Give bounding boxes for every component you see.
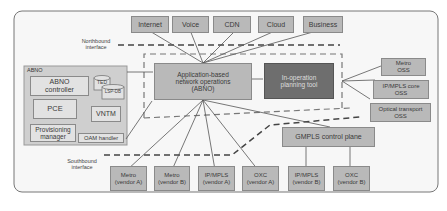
provisioning-manager: Provisioning manager — [30, 124, 76, 142]
vntm-box: VNTM — [91, 106, 121, 122]
device-metro-vendor-b: Metro (vendor B) — [154, 166, 190, 191]
service-cdn: CDN — [213, 16, 251, 33]
ted-label: TED — [94, 80, 110, 86]
southbound-interface-label: Southbound interface — [58, 158, 106, 170]
device-ip-mpls-vendor-b: IP/MPLS (vendor B) — [288, 166, 325, 191]
abno-box: Application-based network operations (AB… — [154, 63, 252, 100]
abno-group-label: ABNO — [27, 67, 43, 73]
service-cloud: Cloud — [258, 16, 294, 33]
optical-transport-oss: Optical transport OSS — [370, 103, 431, 122]
service-voice: Voice — [172, 16, 209, 33]
service-internet: Internet — [131, 16, 169, 33]
gmpls-control-plane: GMPLS control plane — [282, 127, 375, 147]
northbound-interface-label: Northbound interface — [72, 38, 120, 50]
device-ip-mpls-vendor-a: IP/MPLS (vendor A) — [198, 166, 235, 191]
metro-oss: Metro OSS — [381, 58, 426, 76]
device-oxc-vendor-a: OXC (vendor A) — [242, 166, 279, 191]
device-metro-vendor-a: Metro (vendor A) — [110, 166, 147, 191]
oam-handler: OAM handler — [78, 133, 124, 143]
abno-controller: ABNO controller — [30, 76, 89, 96]
service-business: Business — [303, 16, 343, 33]
ip-mpls-core-oss: IP/MPLS core OSS — [373, 80, 429, 99]
in-operation-planning-tool: In-operation planning tool — [264, 63, 334, 99]
lsp-db-label: LSP-DB — [102, 90, 124, 95]
device-oxc-vendor-b: OXC (vendor B) — [333, 166, 370, 191]
pce-box: PCE — [33, 99, 77, 119]
